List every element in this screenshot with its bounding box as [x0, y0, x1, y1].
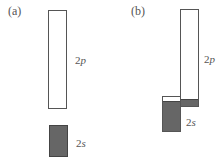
panel-b-2s-filled-portion	[163, 101, 180, 131]
panel-b-2s-band	[162, 96, 181, 132]
panel-b-2s-fill-line	[163, 101, 180, 102]
orbital-letter: s	[82, 137, 86, 149]
orbital-letter: p	[81, 54, 87, 66]
panel-a-label: (a)	[8, 4, 21, 19]
panel-b-label: (b)	[131, 4, 145, 19]
panel-b-2p-fill-line	[181, 99, 198, 100]
panel-a-2p-band	[48, 10, 67, 109]
panel-b-2p-band	[180, 9, 199, 107]
panel-a-2s-band	[49, 125, 68, 157]
panel-a-2s-label: 2s	[76, 137, 86, 149]
orbital-letter: p	[210, 53, 216, 65]
panel-b-2p-label: 2p	[204, 53, 215, 65]
orbital-letter: s	[192, 116, 196, 128]
panel-b-2p-filled-portion	[181, 100, 198, 106]
panel-b-2s-label: 2s	[186, 116, 196, 128]
panel-a-2p-label: 2p	[75, 54, 86, 66]
